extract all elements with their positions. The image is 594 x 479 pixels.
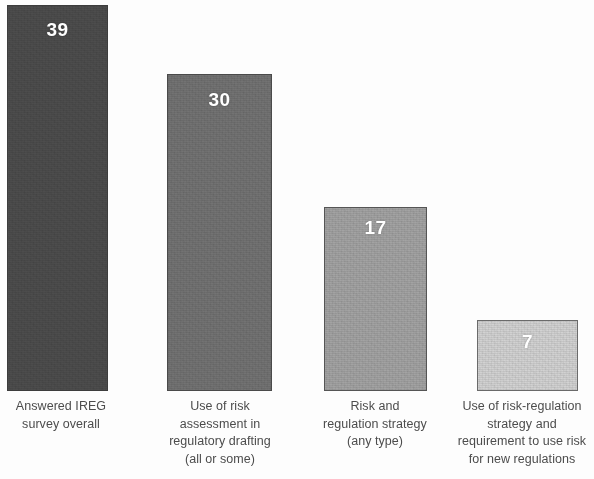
bar-value-label: 7 xyxy=(478,331,577,353)
category-label-use-of-risk-assessment: Use of risk assessment in regulatory dra… xyxy=(152,398,288,468)
category-label-line: assessment in xyxy=(152,416,288,434)
category-label-use-of-risk-regulation-strategy: Use of risk-regulation strategy and requ… xyxy=(450,398,594,468)
bar-use-of-risk-regulation-strategy[interactable]: 7 xyxy=(477,320,578,391)
category-axis: Answered IREG survey overall Use of risk… xyxy=(0,398,594,479)
category-label-line: Risk and xyxy=(305,398,445,416)
category-label-risk-and-regulation-strategy: Risk and regulation strategy (any type) xyxy=(305,398,445,451)
category-label-line: requirement to use risk xyxy=(450,433,594,451)
category-label-line: survey overall xyxy=(0,416,122,434)
category-label-line: Use of risk-regulation xyxy=(450,398,594,416)
category-label-line: Answered IREG xyxy=(0,398,122,416)
bar-texture-overlay xyxy=(167,74,272,391)
bar-texture-overlay xyxy=(7,5,108,391)
bar-value-label: 17 xyxy=(325,217,426,239)
category-label-line: Use of risk xyxy=(152,398,288,416)
category-label-line: regulatory drafting xyxy=(152,433,288,451)
category-label-line: for new regulations xyxy=(450,451,594,469)
category-label-line: (any type) xyxy=(305,433,445,451)
category-label-line: regulation strategy xyxy=(305,416,445,434)
category-label-line: (all or some) xyxy=(152,451,288,469)
bar-value-label: 30 xyxy=(168,89,271,111)
bar-use-of-risk-assessment[interactable]: 30 xyxy=(167,74,272,391)
category-label-line: strategy and xyxy=(450,416,594,434)
plot-area: 39 30 17 7 xyxy=(0,0,594,392)
bar-chart: 39 30 17 7 Answered IREG survey overall … xyxy=(0,0,594,479)
bar-value-label: 39 xyxy=(8,19,107,41)
bar-answered-ireg-survey-overall[interactable]: 39 xyxy=(7,5,108,391)
bar-risk-and-regulation-strategy[interactable]: 17 xyxy=(324,207,427,391)
category-label-answered-ireg-survey-overall: Answered IREG survey overall xyxy=(0,398,122,433)
